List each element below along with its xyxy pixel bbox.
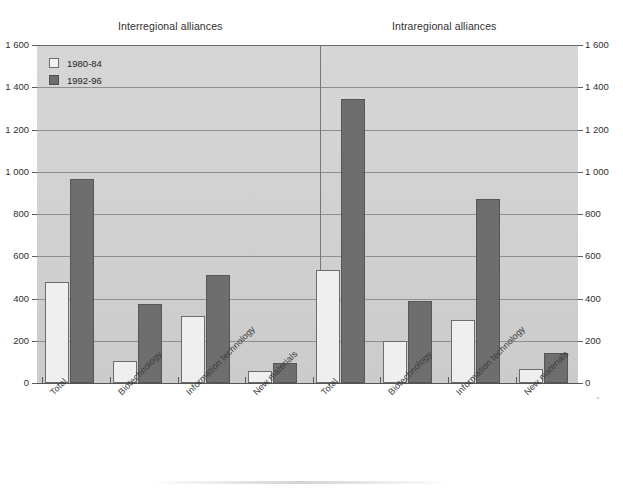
y-tick-right-800 (578, 214, 583, 215)
y-tick-label-right-400: 400 (585, 294, 601, 304)
y-tick-left-400 (32, 299, 37, 300)
y-tick-label-right-1200: 1 200 (585, 125, 609, 135)
panel-title-intraregional: Intraregional alliances (392, 20, 496, 32)
legend-item-1980-84: 1980-84 (49, 56, 102, 70)
square-filled-icon (49, 75, 59, 85)
y-tick-left-1200 (32, 130, 37, 131)
gridline-1200 (37, 130, 578, 131)
x-tick (516, 377, 517, 383)
legend-label: 1992-96 (67, 75, 102, 86)
legend-label: 1980-84 (67, 58, 102, 69)
y-tick-label-right-1600: 1 600 (585, 40, 609, 50)
x-tick (313, 377, 314, 383)
x-tick (448, 377, 449, 383)
y-tick-label-left-1400: 1 400 (5, 82, 29, 92)
y-tick-label-left-600: 600 (13, 251, 29, 261)
panel-title-interregional: Interregional alliances (118, 20, 222, 32)
y-tick-left-0 (32, 383, 37, 384)
y-tick-label-left-200: 200 (13, 336, 29, 346)
scan-speck (597, 397, 599, 399)
y-tick-label-right-200: 200 (585, 336, 601, 346)
y-tick-right-1600 (578, 45, 583, 46)
y-tick-left-800 (32, 214, 37, 215)
y-tick-right-1200 (578, 130, 583, 131)
x-tick (178, 377, 179, 383)
chart-figure: Interregional alliances Intraregional al… (0, 0, 623, 489)
y-tick-label-left-0: 0 (24, 378, 29, 388)
y-tick-label-right-0: 0 (585, 378, 590, 388)
y-tick-right-1000 (578, 172, 583, 173)
bar-intraregional-total-1980-84 (316, 270, 340, 383)
chart-legend: 1980-841992-96 (49, 56, 102, 90)
y-tick-left-1000 (32, 172, 37, 173)
y-tick-label-right-800: 800 (585, 209, 601, 219)
gridline-0 (37, 383, 578, 384)
legend-item-1992-96: 1992-96 (49, 73, 102, 87)
bar-intraregional-total-1992-96 (341, 99, 365, 383)
y-tick-label-right-600: 600 (585, 251, 601, 261)
y-tick-right-1400 (578, 87, 583, 88)
x-tick (380, 377, 381, 383)
x-tick (42, 377, 43, 383)
y-tick-left-200 (32, 341, 37, 342)
bar-interregional-total-1992-96 (70, 179, 94, 383)
y-tick-left-600 (32, 256, 37, 257)
x-tick (245, 377, 246, 383)
y-tick-label-right-1400: 1 400 (585, 82, 609, 92)
y-tick-right-400 (578, 299, 583, 300)
bar-interregional-total-1980-84 (45, 282, 69, 383)
scan-smudge (150, 481, 450, 484)
y-tick-right-600 (578, 256, 583, 257)
y-tick-label-left-800: 800 (13, 209, 29, 219)
plot-area (37, 45, 578, 383)
y-tick-label-left-1200: 1 200 (5, 125, 29, 135)
y-tick-label-right-1000: 1 000 (585, 167, 609, 177)
y-tick-left-1400 (32, 87, 37, 88)
y-tick-label-left-1600: 1 600 (5, 40, 29, 50)
gridline-1400 (37, 87, 578, 88)
y-tick-left-1600 (32, 45, 37, 46)
y-tick-right-200 (578, 341, 583, 342)
gridline-1600 (37, 45, 578, 46)
y-tick-label-left-1000: 1 000 (5, 167, 29, 177)
gridline-1000 (37, 172, 578, 173)
square-outline-icon (49, 58, 59, 68)
x-tick (110, 377, 111, 383)
y-tick-label-left-400: 400 (13, 294, 29, 304)
y-tick-right-0 (578, 383, 583, 384)
